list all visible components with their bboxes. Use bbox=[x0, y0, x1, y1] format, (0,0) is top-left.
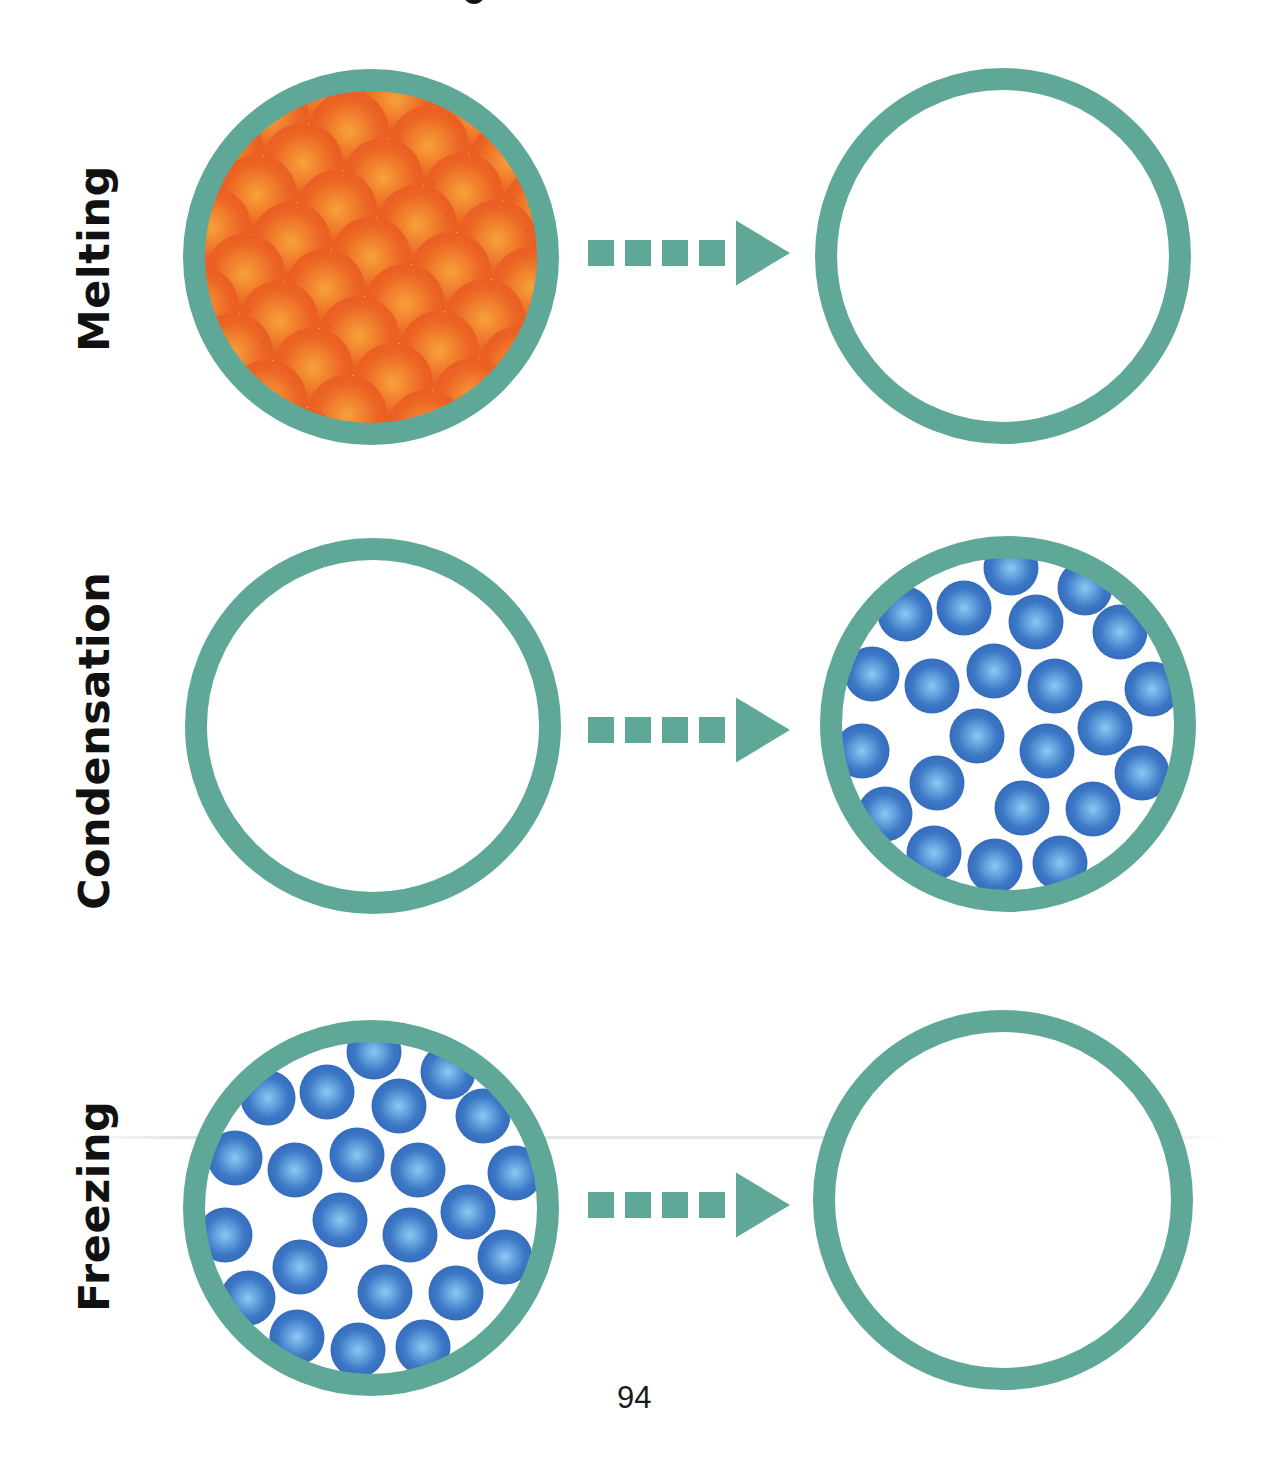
liquid-particle bbox=[358, 1265, 413, 1320]
arrow-head bbox=[736, 698, 790, 763]
liquid-particle bbox=[300, 1065, 355, 1120]
arrow-dash bbox=[625, 1192, 651, 1218]
liquid-particle bbox=[968, 839, 1023, 894]
liquid-particle bbox=[391, 1143, 446, 1198]
liquid-particle bbox=[383, 1208, 438, 1263]
container-before-condensation bbox=[196, 549, 550, 903]
liquid-particle bbox=[313, 1193, 368, 1248]
dotted-arrow-icon bbox=[588, 1173, 790, 1238]
container-after-melting bbox=[826, 79, 1180, 433]
arrow-dash bbox=[699, 717, 725, 743]
liquid-particle bbox=[429, 1266, 484, 1321]
arrow-head bbox=[736, 221, 790, 286]
arrow-head bbox=[736, 1173, 790, 1238]
container-after-freezing bbox=[824, 1021, 1182, 1379]
row-label-melting: Melting bbox=[73, 165, 116, 352]
arrow-dash bbox=[699, 240, 725, 266]
container-after-condensation bbox=[831, 541, 1185, 902]
liquid-particle bbox=[441, 1185, 496, 1240]
liquid-particle bbox=[1020, 724, 1075, 779]
liquid-particle bbox=[1028, 659, 1083, 714]
row-condensation bbox=[196, 541, 1185, 904]
liquid-particle bbox=[950, 709, 1005, 764]
row-label-condensation: Condensation bbox=[73, 572, 116, 910]
arrow-dash bbox=[662, 717, 688, 743]
states-of-matter-diagram bbox=[0, 0, 1277, 1476]
arrow-dash bbox=[588, 717, 614, 743]
liquid-particle bbox=[330, 1128, 385, 1183]
liquid-particle bbox=[273, 1240, 328, 1295]
liquid-particle bbox=[937, 581, 992, 636]
liquid-particle bbox=[372, 1079, 427, 1134]
liquid-particle bbox=[331, 1323, 386, 1378]
liquid-particle bbox=[995, 781, 1050, 836]
liquid-particle bbox=[967, 644, 1022, 699]
liquid-particle bbox=[905, 659, 960, 714]
arrow-dash bbox=[625, 717, 651, 743]
arrow-dash bbox=[588, 240, 614, 266]
row-label-freezing: Freezing bbox=[73, 1101, 116, 1312]
liquid-particle bbox=[1009, 595, 1064, 650]
page-number: 94 bbox=[617, 1380, 651, 1416]
arrow-dash bbox=[588, 1192, 614, 1218]
liquid-particle bbox=[910, 756, 965, 811]
container-before-melting bbox=[159, 12, 583, 502]
row-melting bbox=[159, 12, 1180, 502]
arrow-dash bbox=[662, 240, 688, 266]
liquid-particle bbox=[1078, 701, 1133, 756]
arrow-dash bbox=[662, 1192, 688, 1218]
dotted-arrow-icon bbox=[588, 698, 790, 763]
row-freezing bbox=[194, 1021, 1182, 1385]
arrow-dash bbox=[625, 240, 651, 266]
dotted-arrow-icon bbox=[588, 221, 790, 286]
liquid-particle bbox=[268, 1143, 323, 1198]
arrow-dash bbox=[699, 1192, 725, 1218]
container-before-freezing bbox=[194, 1025, 548, 1386]
liquid-particle bbox=[1066, 782, 1121, 837]
